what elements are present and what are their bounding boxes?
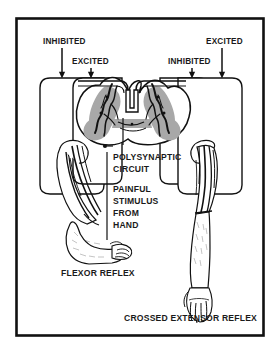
label-stimulus-line4: HAND xyxy=(113,220,139,230)
caption-crossed-extensor-reflex: CROSSED EXTENSOR REFLEX xyxy=(124,313,257,323)
reflex-arc-illustration: INHIBITED EXCITED INHIBITED EXCITED xyxy=(0,0,279,351)
label-polysynaptic-line2: CIRCUIT xyxy=(113,164,150,174)
label-excited-right: EXCITED xyxy=(206,37,243,46)
caption-flexor-reflex: FLEXOR REFLEX xyxy=(61,268,135,278)
label-stimulus-line2: STIMULUS xyxy=(113,196,159,206)
spinal-cord-cross-section-icon xyxy=(76,78,190,145)
label-polysynaptic-line1: POLYSYNAPTIC xyxy=(113,152,181,162)
label-stimulus-line1: PAINFUL xyxy=(113,184,151,194)
label-inhibited-left: INHIBITED xyxy=(43,37,86,46)
label-inhibited-right: INHIBITED xyxy=(168,57,211,66)
label-stimulus-line3: FROM xyxy=(113,208,139,218)
label-excited-left: EXCITED xyxy=(72,57,109,66)
leader-dot-icon xyxy=(103,144,107,148)
reflex-arc-figure: INHIBITED EXCITED INHIBITED EXCITED xyxy=(0,0,279,351)
